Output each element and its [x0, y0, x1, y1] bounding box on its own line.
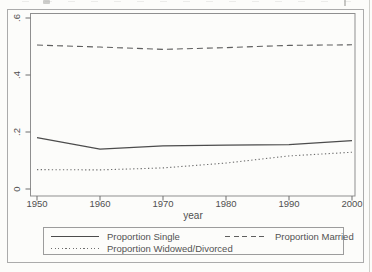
series-line-2 [37, 152, 352, 170]
x-tick-label-1950: 1950 [26, 199, 47, 209]
x-tick-label-1980: 1980 [215, 199, 236, 209]
x-tick-label-2000: 2000 [341, 199, 362, 209]
y-tick-label-0: 0 [12, 186, 22, 191]
y-tick-label-04: .4 [12, 71, 22, 79]
legend-label-widowed-divorced: Proportion Widowed/Divorced [107, 244, 233, 254]
legend-item-married: Proportion Married [225, 231, 354, 242]
scanned-chart-figure: 0 .2 .4 .6 1950 1960 1970 1980 1990 2000… [0, 0, 372, 272]
y-tick-label-02: .2 [12, 128, 22, 136]
legend-item-widowed-divorced: Proportion Widowed/Divorced [51, 243, 233, 254]
series-line-0 [37, 138, 352, 149]
y-tick-label-06: .6 [12, 14, 22, 22]
x-tick-label-1970: 1970 [152, 199, 173, 209]
series-line-1 [37, 45, 352, 50]
x-tick-label-1990: 1990 [278, 199, 299, 209]
legend-label-married: Proportion Married [275, 232, 354, 242]
legend-label-single: Proportion Single [107, 232, 180, 242]
plot-border [31, 14, 356, 197]
dotted-line-key-icon [51, 248, 99, 249]
legend-item-single: Proportion Single [51, 231, 180, 242]
dashed-line-key-icon [225, 236, 267, 237]
x-tick-label-1960: 1960 [89, 199, 110, 209]
x-axis-title: year [183, 211, 202, 221]
legend: Proportion Single Proportion Married Pro… [43, 227, 344, 255]
solid-line-key-icon [51, 236, 99, 237]
